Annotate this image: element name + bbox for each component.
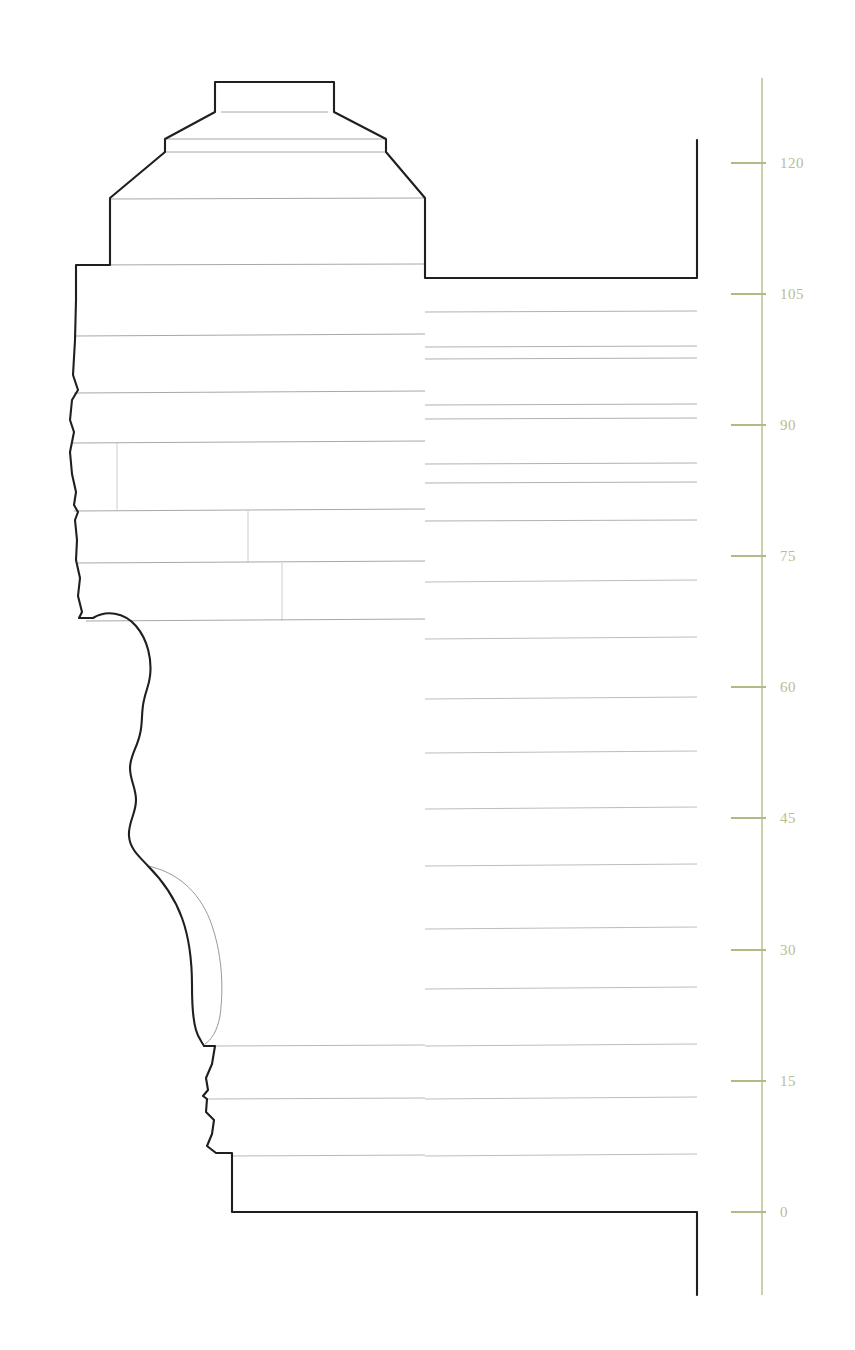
- scale-tick-label-105: 105: [780, 286, 804, 303]
- inner-lens-feature: [148, 866, 222, 1044]
- section-drawing-canvas: 120 105 90 75 60 45 30 15 0: [0, 0, 855, 1350]
- layer-lines-right-column-lower: [425, 580, 697, 1156]
- layer-lines-lower-left: [207, 1045, 425, 1156]
- scale-tick-label-45: 45: [780, 810, 796, 827]
- scale-tick-label-15: 15: [780, 1073, 796, 1090]
- layer-lines-right-column: [425, 311, 697, 521]
- scale-tick-label-120: 120: [780, 155, 804, 172]
- section-drawing-svg: [0, 0, 855, 1350]
- scale-tick-label-0: 0: [780, 1204, 788, 1221]
- layer-subdivision-verticals: [117, 443, 282, 621]
- layer-lines-cap: [110, 112, 424, 199]
- scale-tick-label-60: 60: [780, 679, 796, 696]
- scale-tick-label-90: 90: [780, 417, 796, 434]
- scale-tick-label-75: 75: [780, 548, 796, 565]
- layer-lines-left-column: [72, 264, 425, 621]
- scale-tick-label-30: 30: [780, 942, 796, 959]
